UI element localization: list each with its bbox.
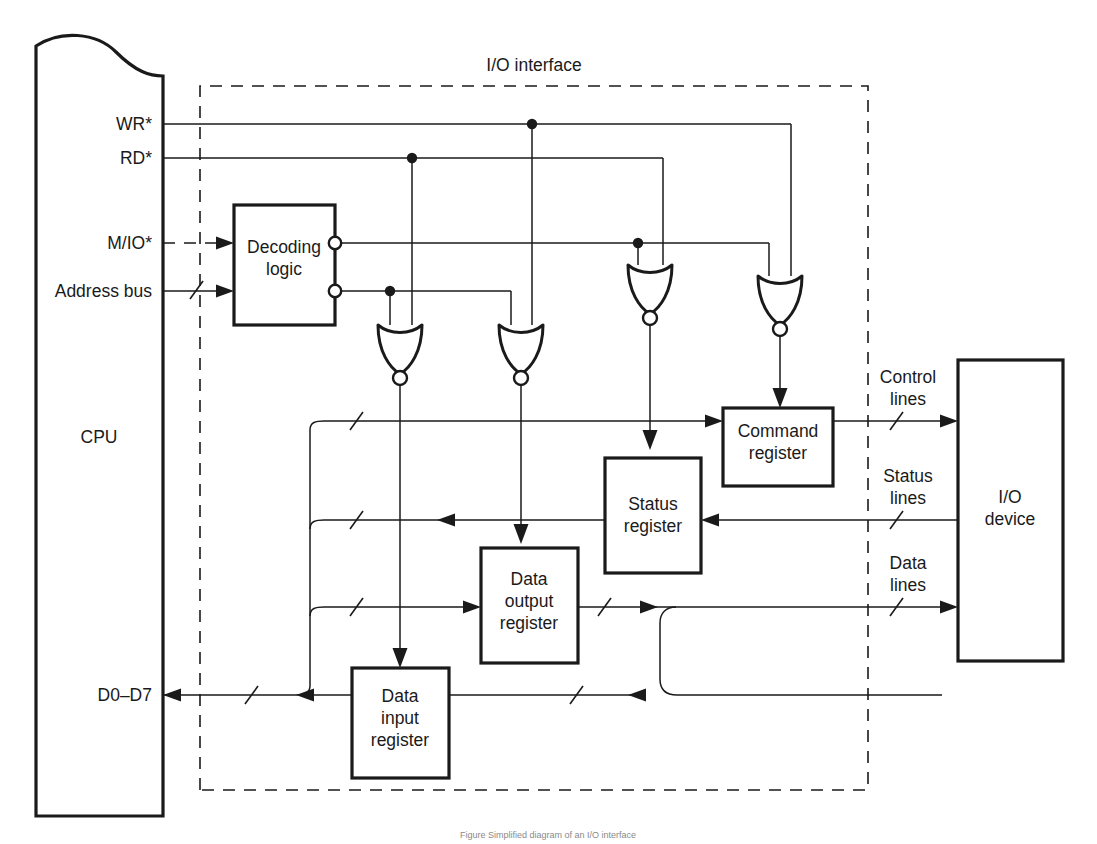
arrowhead-data-input-register-out bbox=[296, 689, 314, 702]
decoding-logic-block: Decoding logic bbox=[234, 205, 335, 325]
cpu-pin-label-wr: WR* bbox=[116, 114, 152, 134]
bus-slash-address bbox=[190, 281, 203, 299]
status-lines-label-line1: Status bbox=[883, 466, 933, 486]
data-input-register-label-line3: register bbox=[371, 730, 430, 750]
arrowhead-status-readback-to-bus bbox=[437, 514, 455, 527]
nor-gate-data-output bbox=[499, 325, 543, 544]
decoder-output-bubble-upper bbox=[329, 237, 341, 249]
arrowhead-into-data-output-register bbox=[463, 601, 481, 614]
wire-data-bus-to-data-output-register bbox=[310, 607, 465, 616]
arrowhead-into-command-register bbox=[705, 415, 723, 428]
data-output-register-label-line3: register bbox=[500, 613, 559, 633]
data-lines-label-line2: lines bbox=[890, 575, 926, 595]
arrowhead-data-input-strobe bbox=[393, 648, 408, 668]
nor-gate-status bbox=[628, 265, 672, 450]
command-register-label-line2: register bbox=[749, 443, 808, 463]
status-lines-label-line2: lines bbox=[890, 488, 926, 508]
data-input-register-block: Data input register bbox=[352, 668, 449, 778]
decoder-output-bubble-lower bbox=[329, 285, 341, 297]
io-interface-title: I/O interface bbox=[486, 55, 581, 75]
decoding-logic-label-line1: Decoding bbox=[247, 237, 321, 257]
status-register-label-line1: Status bbox=[628, 494, 678, 514]
control-lines-label-line2: lines bbox=[890, 389, 926, 409]
command-register-label-line1: Command bbox=[738, 421, 819, 441]
nor-gate-status-body bbox=[628, 265, 672, 314]
nor-gate-command bbox=[758, 276, 802, 408]
arrowhead-data-output-strobe bbox=[514, 524, 529, 544]
arrowhead-status-lines-into-register bbox=[701, 514, 719, 527]
cpu-pin-label-data-bus: D0–D7 bbox=[98, 685, 152, 705]
io-device-label-line2: device bbox=[985, 509, 1036, 529]
nor-gate-data-input bbox=[378, 325, 422, 668]
io-interface-diagram: I/O interface CPU WR* RD* M/IO* Address … bbox=[0, 0, 1097, 844]
nor-gate-status-bubble bbox=[643, 311, 657, 325]
arrowhead-into-cpu-data-bus bbox=[163, 689, 181, 702]
nor-gate-data-input-bubble bbox=[393, 371, 407, 385]
data-output-register-label-line1: Data bbox=[511, 569, 548, 589]
arrowhead-control-lines-into-device bbox=[940, 415, 958, 428]
nor-gate-command-bubble bbox=[773, 322, 787, 336]
wire-address-bus-to-decoder bbox=[163, 281, 234, 299]
cpu-pin-label-address-bus: Address bus bbox=[55, 281, 153, 301]
status-register-block: Status register bbox=[605, 458, 701, 573]
arrowhead-data-out-midpoint bbox=[640, 601, 658, 614]
arrowhead-data-return-into-register bbox=[628, 689, 646, 702]
arrowhead-data-lines-into-device bbox=[940, 601, 958, 614]
control-lines-label-line1: Control bbox=[880, 367, 936, 387]
nor-gate-data-output-body bbox=[499, 325, 543, 374]
arrowhead-address-into-decoder bbox=[216, 285, 234, 298]
wire-data-bus-trunk-to-cpu bbox=[163, 686, 310, 695]
cpu-label: CPU bbox=[81, 427, 118, 447]
command-register-block: Command register bbox=[723, 408, 833, 486]
data-input-register-label-line2: input bbox=[381, 708, 419, 728]
cpu-pin-label-mio: M/IO* bbox=[107, 233, 152, 253]
io-device-block: I/O device bbox=[958, 360, 1063, 661]
status-register-label-line2: register bbox=[624, 516, 683, 536]
arrowhead-command-strobe bbox=[773, 388, 788, 408]
figure-caption: Figure Simplified diagram of an I/O inte… bbox=[460, 830, 636, 840]
decoding-logic-label-line2: logic bbox=[266, 259, 302, 279]
diagram-canvas: I/O interface CPU WR* RD* M/IO* Address … bbox=[0, 0, 1097, 844]
nor-gate-data-output-bubble bbox=[514, 371, 528, 385]
data-output-register-label-line2: output bbox=[505, 591, 554, 611]
nor-gate-data-input-body bbox=[378, 325, 422, 374]
arrowhead-status-strobe bbox=[643, 430, 658, 450]
wire-mio-to-decoder bbox=[163, 237, 234, 250]
wire-status-register-to-data-bus bbox=[310, 520, 605, 529]
data-output-register-block: Data output register bbox=[481, 548, 578, 663]
wire-device-data-return-to-data-input-register bbox=[660, 607, 942, 695]
data-input-register-label-line1: Data bbox=[382, 686, 419, 706]
io-device-label-line1: I/O bbox=[998, 487, 1021, 507]
wire-data-bus-to-command-register bbox=[310, 421, 707, 430]
cpu-pin-label-rd: RD* bbox=[120, 148, 152, 168]
arrowhead-mio-into-decoder bbox=[216, 237, 234, 250]
nor-gate-command-body bbox=[758, 276, 802, 325]
data-lines-label-line1: Data bbox=[890, 553, 927, 573]
